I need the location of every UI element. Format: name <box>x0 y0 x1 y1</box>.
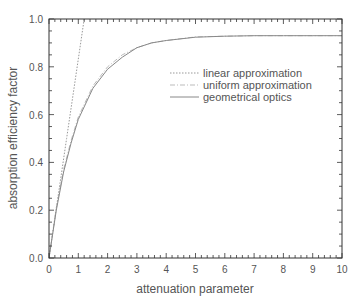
x-tick-label: 7 <box>251 264 257 275</box>
x-tick-label: 5 <box>193 264 199 275</box>
legend: linear approximationuniform approximatio… <box>170 67 312 103</box>
x-tick-label: 1 <box>76 264 82 275</box>
y-tick-label: 1.0 <box>29 14 43 25</box>
legend-label: geometrical optics <box>203 91 292 103</box>
legend-label: uniform approximation <box>203 79 312 91</box>
y-axis-label: absorption efficiency factor <box>6 67 20 210</box>
x-tick-label: 4 <box>163 264 169 275</box>
x-tick-label: 8 <box>281 264 287 275</box>
x-tick-label: 2 <box>105 264 111 275</box>
y-tick-label: 0.2 <box>29 205 43 216</box>
plot-frame <box>49 19 342 258</box>
chart: 0123456789100.00.20.40.60.81.0 linear ap… <box>0 0 356 307</box>
y-tick-label: 0.0 <box>29 253 43 264</box>
axes: 0123456789100.00.20.40.60.81.0 <box>29 14 348 275</box>
x-tick-label: 9 <box>310 264 316 275</box>
series-layer <box>49 19 342 258</box>
x-tick-label: 0 <box>46 264 52 275</box>
x-tick-label: 10 <box>336 264 348 275</box>
x-tick-label: 3 <box>134 264 140 275</box>
y-tick-label: 0.4 <box>29 157 43 168</box>
x-tick-label: 6 <box>222 264 228 275</box>
y-tick-label: 0.8 <box>29 62 43 73</box>
legend-label: linear approximation <box>203 67 302 79</box>
x-axis-label: attenuation parameter <box>136 282 253 296</box>
y-tick-label: 0.6 <box>29 110 43 121</box>
